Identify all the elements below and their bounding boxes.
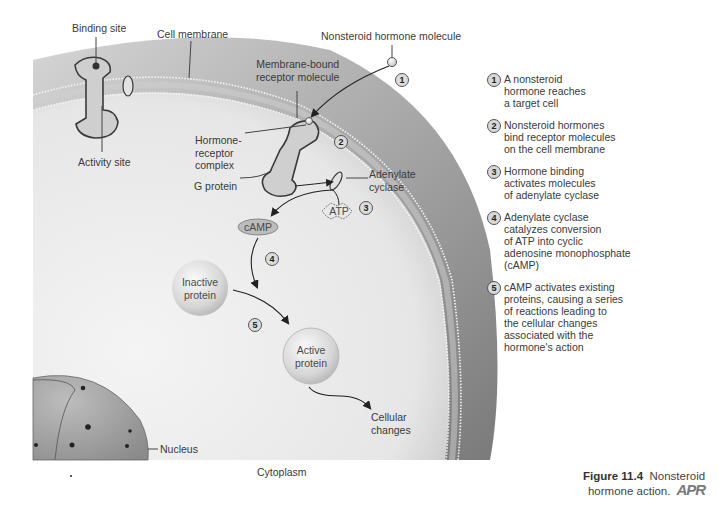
label-active-protein: Active protein: [283, 344, 339, 369]
marker-step-2: 2: [334, 135, 348, 149]
label-camp: cAMP: [238, 221, 278, 234]
label-inactive-protein: Inactive protein: [172, 276, 228, 301]
step-text-5: cAMP activates existing proteins, causin…: [504, 281, 623, 353]
step-number-4: 4: [487, 211, 501, 225]
label-g-protein: G protein: [194, 180, 237, 193]
step-number-1: 1: [487, 73, 501, 87]
label-cell-membrane: Cell membrane: [157, 28, 228, 41]
step-number-3: 3: [487, 165, 501, 179]
step-item-2: 2 Nonsteroid hormones bind receptor mole…: [487, 119, 712, 155]
marker-step-1: 1: [395, 73, 409, 87]
hormone-molecule: [388, 58, 397, 67]
label-receptor-molecule: Membrane-bound receptor molecule: [256, 58, 339, 83]
step-item-3: 3 Hormone binding activates molecules of…: [487, 165, 712, 201]
label-nucleus: Nucleus: [160, 443, 198, 456]
step-text-4: Adenylate cyclase catalyzes conversion o…: [504, 211, 631, 271]
step-number-2: 2: [487, 119, 501, 133]
label-cellular-changes: Cellular changes: [371, 411, 411, 436]
label-activity-site: Activity site: [78, 156, 131, 169]
step-text-2: Nonsteroid hormones bind receptor molecu…: [504, 119, 615, 155]
label-hormone-molecule: Nonsteroid hormone molecule: [321, 30, 461, 43]
figure-caption: Figure 11.4 Nonsteroid hormone action.AP…: [583, 470, 705, 498]
marker-step-5: 5: [248, 318, 262, 332]
label-binding-site: Binding site: [72, 22, 126, 35]
label-cytoplasm: Cytoplasm: [257, 466, 307, 479]
step-text-1: A nonsteroid hormone reaches a target ce…: [504, 73, 586, 109]
apr-badge-icon: APR: [676, 483, 705, 496]
figure-title-line2: hormone action.: [588, 485, 670, 497]
step-item-1: 1 A nonsteroid hormone reaches a target …: [487, 73, 712, 109]
label-adenylate-cyclase: Adenylate cyclase: [369, 168, 416, 193]
step-legend: 1 A nonsteroid hormone reaches a target …: [487, 73, 712, 363]
label-hormone-receptor-complex: Hormone- receptor complex: [195, 134, 242, 172]
marker-step-3: 3: [359, 201, 373, 215]
step-number-5: 5: [487, 281, 501, 295]
step-item-5: 5 cAMP activates existing proteins, caus…: [487, 281, 712, 353]
figure-number: Figure 11.4: [583, 470, 643, 482]
marker-step-4: 4: [265, 252, 279, 266]
label-atp: ATP: [325, 205, 353, 218]
step-item-4: 4 Adenylate cyclase catalyzes conversion…: [487, 211, 712, 271]
step-text-3: Hormone binding activates molecules of a…: [504, 165, 599, 201]
